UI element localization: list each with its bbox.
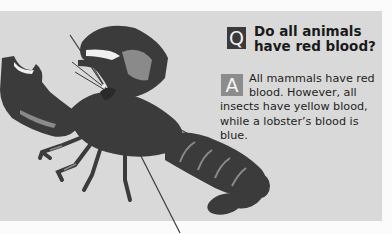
answer-row: A All mammals have red blood. However, a… [220,72,382,143]
qa-block: Q Do all animals have red blood? A All m… [220,24,380,64]
question-icon: Q [227,27,246,49]
question-row: Q Do all animals have red blood? [220,24,380,64]
answer-text: All mammals have red blood. However, all… [220,72,382,143]
question-text: Do all animals have red blood? [254,24,380,54]
answer-icon: A [221,74,243,96]
